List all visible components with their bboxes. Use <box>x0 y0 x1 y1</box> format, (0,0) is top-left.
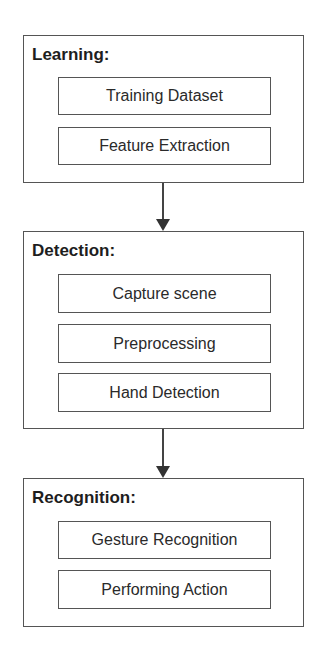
stage-title: Detection: <box>32 241 115 261</box>
stage-learning: Learning: Training Dataset Feature Extra… <box>23 35 304 183</box>
arrow-down-icon <box>156 466 170 478</box>
stage-title: Recognition: <box>32 488 136 508</box>
step-preprocessing: Preprocessing <box>58 324 271 363</box>
step-training-dataset: Training Dataset <box>58 77 271 115</box>
stage-title: Learning: <box>32 45 109 65</box>
arrow-down-icon <box>156 219 170 231</box>
stage-detection: Detection: Capture scene Preprocessing H… <box>23 231 304 429</box>
step-performing-action: Performing Action <box>58 570 271 609</box>
connector-line <box>162 183 164 221</box>
stage-recognition: Recognition: Gesture Recognition Perform… <box>23 478 304 627</box>
step-capture-scene: Capture scene <box>58 274 271 313</box>
connector-line <box>162 429 164 467</box>
step-feature-extraction: Feature Extraction <box>58 127 271 165</box>
step-hand-detection: Hand Detection <box>58 373 271 412</box>
step-gesture-recognition: Gesture Recognition <box>58 521 271 559</box>
